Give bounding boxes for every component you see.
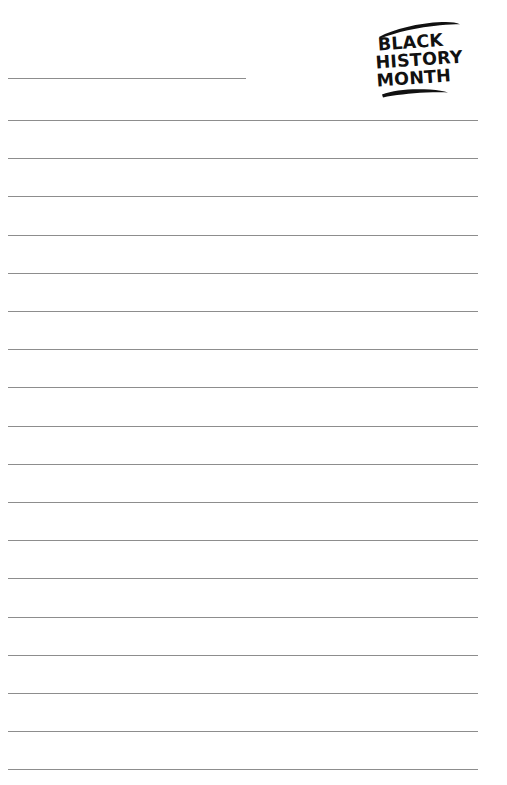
writing-line[interactable] xyxy=(8,273,478,274)
writing-line[interactable] xyxy=(8,578,478,579)
writing-line[interactable] xyxy=(8,655,478,656)
writing-line[interactable] xyxy=(8,120,478,121)
writing-line[interactable] xyxy=(8,731,478,732)
writing-line[interactable] xyxy=(8,235,478,236)
writing-line[interactable] xyxy=(8,693,478,694)
writing-line[interactable] xyxy=(8,196,478,197)
worksheet-page: BLACK HISTORY MONTH xyxy=(0,0,507,785)
writing-line[interactable] xyxy=(8,769,478,770)
writing-line[interactable] xyxy=(8,464,478,465)
writing-line[interactable] xyxy=(8,502,478,503)
writing-line[interactable] xyxy=(8,617,478,618)
writing-line[interactable] xyxy=(8,158,478,159)
writing-line[interactable] xyxy=(8,349,478,350)
writing-line[interactable] xyxy=(8,311,478,312)
writing-line[interactable] xyxy=(8,426,478,427)
ruled-lines-area xyxy=(0,0,507,785)
writing-line[interactable] xyxy=(8,387,478,388)
writing-line[interactable] xyxy=(8,540,478,541)
